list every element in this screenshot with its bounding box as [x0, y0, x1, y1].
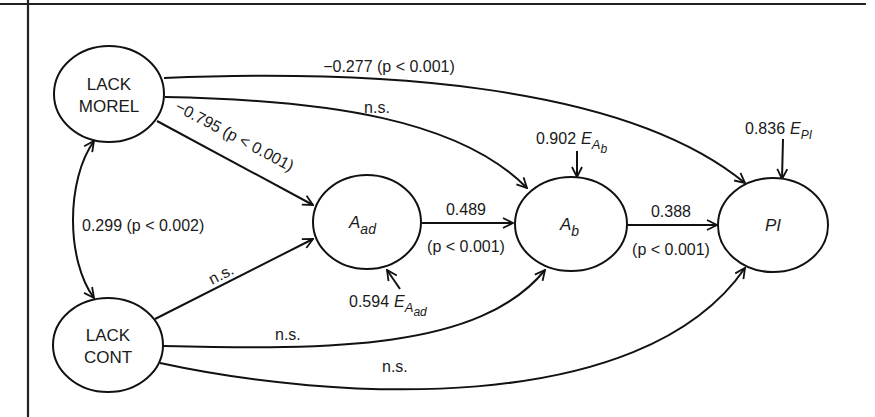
error-arrow-aad	[387, 270, 400, 289]
edge-morel-to-ab	[165, 97, 527, 188]
node-a-ad: Aad	[313, 175, 421, 269]
edge-label-covariance: 0.299 (p < 0.002)	[82, 217, 204, 234]
edge-label-cont-to-aad: n.s.	[206, 261, 237, 288]
edge-label-aad-to-ab-p: (p < 0.001)	[427, 238, 505, 255]
edge-label-cont-to-ab: n.s.	[275, 326, 301, 343]
edge-cont-to-aad	[155, 239, 313, 319]
node-lack-morel-line2: MOREL	[79, 97, 139, 116]
path-diagram: LACK MOREL LACK CONT Aad Ab PI −0.277 (p…	[0, 0, 875, 417]
edge-label-morel-to-pi: −0.277 (p < 0.001)	[323, 58, 455, 75]
error-arrow-pi	[782, 139, 783, 179]
edge-morel-to-pi	[164, 76, 745, 183]
edge-cont-to-pi	[160, 268, 745, 389]
edge-label-cont-to-pi: n.s.	[382, 358, 408, 375]
node-lack-cont: LACK CONT	[53, 298, 163, 392]
edge-label-ab-to-pi-p: (p < 0.001)	[632, 241, 710, 258]
node-pi: PI	[718, 178, 828, 272]
node-a-b: Ab	[515, 177, 627, 271]
edge-label-aad-to-ab-value: 0.489	[446, 201, 486, 218]
error-label-pi: 0.836EPI	[745, 120, 813, 142]
node-lack-morel: LACK MOREL	[54, 46, 164, 142]
error-label-aad: 0.594EAad	[349, 293, 427, 319]
path-diagram-canvas: LACK MOREL LACK CONT Aad Ab PI −0.277 (p…	[0, 0, 875, 417]
node-pi-label: PI	[765, 216, 781, 235]
node-lack-cont-line2: CONT	[84, 348, 132, 367]
edge-label-ab-to-pi-value: 0.388	[651, 203, 691, 220]
node-lack-morel-line1: LACK	[87, 75, 132, 94]
node-lack-cont-line1: LACK	[86, 326, 131, 345]
edge-label-morel-to-ab: n.s.	[364, 99, 390, 116]
error-label-ab: 0.902EAb	[536, 130, 607, 156]
